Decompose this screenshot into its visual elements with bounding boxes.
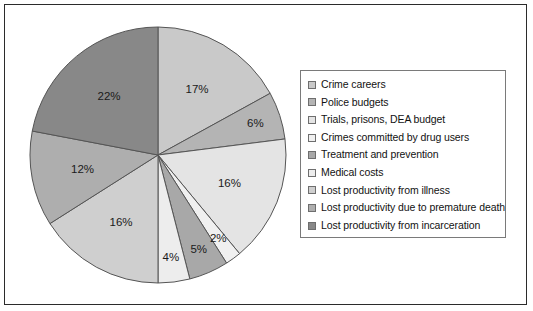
chart-legend: Crime careers Police budgets Trials, pri…: [300, 70, 506, 238]
pie-chart-svg: 17%6%16%2%5%4%16%12%22%: [26, 16, 296, 296]
legend-item[interactable]: Lost productivity from illness: [308, 182, 499, 200]
legend-swatch-icon: [308, 204, 316, 212]
legend-swatch-icon: [308, 81, 316, 89]
legend-item[interactable]: Medical costs: [308, 164, 499, 182]
legend-item-label: Lost productivity due to premature death: [321, 199, 505, 217]
legend-item-label: Trials, prisons, DEA budget: [321, 111, 445, 129]
legend-item[interactable]: Crime careers: [308, 76, 499, 94]
legend-swatch-icon: [308, 134, 316, 142]
pie-slice-label: 17%: [186, 83, 209, 95]
legend-item[interactable]: Trials, prisons, DEA budget: [308, 111, 499, 129]
legend-swatch-icon: [308, 116, 316, 124]
legend-item-label: Treatment and prevention: [321, 146, 438, 164]
legend-item[interactable]: Lost productivity from incarceration: [308, 217, 499, 235]
pie-slice-label: 16%: [218, 177, 241, 189]
legend-item-label: Police budgets: [321, 94, 388, 112]
legend-item-label: Medical costs: [321, 164, 383, 182]
legend-swatch-icon: [308, 151, 316, 159]
pie-slice-label: 2%: [210, 232, 227, 244]
legend-item[interactable]: Lost productivity due to premature death: [308, 199, 499, 217]
legend-item[interactable]: Police budgets: [308, 94, 499, 112]
pie-slice-label: 4%: [162, 251, 179, 263]
legend-swatch-icon: [308, 98, 316, 106]
pie-slice-label: 6%: [247, 117, 264, 129]
pie-chart-figure: 17%6%16%2%5%4%16%12%22% Crime careers Po…: [0, 0, 533, 311]
legend-item-label: Crimes committed by drug users: [321, 129, 469, 147]
legend-item-label: Crime careers: [321, 76, 386, 94]
legend-item[interactable]: Treatment and prevention: [308, 146, 499, 164]
pie-slice-label: 22%: [97, 90, 120, 102]
pie-slice-label: 12%: [71, 163, 94, 175]
legend-item[interactable]: Crimes committed by drug users: [308, 129, 499, 147]
legend-swatch-icon: [308, 186, 316, 194]
pie-slice-group: [30, 27, 286, 283]
legend-item-label: Lost productivity from incarceration: [321, 217, 480, 235]
legend-swatch-icon: [308, 169, 316, 177]
legend-item-label: Lost productivity from illness: [321, 182, 450, 200]
pie-slice-label: 5%: [190, 243, 207, 255]
chart-page: 17%6%16%2%5%4%16%12%22% Crime careers Po…: [0, 0, 533, 311]
pie-slice-label: 16%: [109, 216, 132, 228]
legend-swatch-icon: [308, 222, 316, 230]
